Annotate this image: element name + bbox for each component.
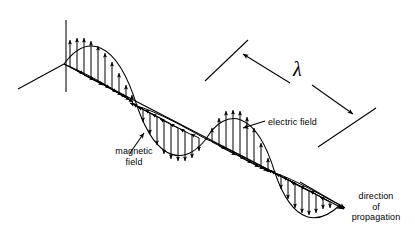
magnetic-field-arrows-lobe-4 bbox=[268, 170, 330, 202]
envelope-lobe-4 bbox=[275, 173, 340, 218]
direction-label-line-2: of bbox=[340, 202, 412, 213]
lambda-guide-right bbox=[318, 108, 376, 147]
lambda-guide-left bbox=[205, 40, 248, 81]
em-wave-figure: λ electric field magnetic field directio… bbox=[0, 0, 415, 243]
direction-label-line-3: propagation bbox=[340, 212, 412, 223]
electric-field-arrows-lobe-1 bbox=[70, 38, 132, 102]
axis-group bbox=[18, 20, 66, 92]
wavelength-marker bbox=[205, 40, 376, 147]
electric-field-label: electric field bbox=[268, 117, 317, 128]
field-lobe-1 bbox=[70, 38, 133, 102]
direction-of-propagation-label: direction of propagation bbox=[340, 191, 412, 223]
lambda-arrow-left bbox=[243, 54, 290, 83]
magnetic-field-label-line-1: magnetic bbox=[104, 146, 164, 157]
electric-field-leader bbox=[243, 121, 265, 128]
direction-label-line-1: direction bbox=[340, 191, 412, 202]
magnetic-field-label: magnetic field bbox=[104, 146, 164, 167]
magnetic-field-arrows-lobe-3 bbox=[212, 142, 271, 172]
magnetic-field-label-line-2: field bbox=[104, 157, 164, 168]
electric-field-arrows-lobe-3 bbox=[212, 110, 268, 171]
wavelength-label: λ bbox=[293, 64, 302, 75]
field-lobe-4 bbox=[268, 170, 330, 215]
magnetic-field-axis bbox=[18, 64, 64, 89]
lambda-arrow-right bbox=[312, 85, 353, 114]
